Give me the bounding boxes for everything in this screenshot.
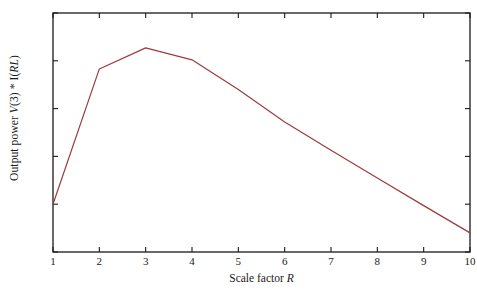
x-axis-label-text: Scale factor (229, 272, 284, 284)
x-tick-label: 7 (311, 255, 351, 267)
x-tick-label: 2 (79, 255, 119, 267)
plot-area (53, 13, 470, 252)
chart-figure: 0.9 W1.0 W1.1 W1.2 W1.3 W1.4 W 123456789… (0, 0, 477, 291)
x-tick-label: 6 (265, 255, 305, 267)
x-axis-label-symbol: R (287, 272, 294, 284)
x-tick-label: 3 (126, 255, 166, 267)
y-axis-label-v: V (8, 106, 20, 113)
y-axis-label-mid: (3) * I( (8, 73, 20, 106)
x-tick-label: 1 (33, 255, 73, 267)
x-axis-label: Scale factor R (53, 272, 470, 284)
y-axis-label-prefix: Output power (8, 113, 20, 181)
x-tick-label: 9 (404, 255, 444, 267)
x-tick-label: 4 (172, 255, 212, 267)
x-tick-label: 10 (450, 255, 477, 267)
y-axis-label-suffix: ) (8, 55, 20, 59)
x-tick-label: 8 (357, 255, 397, 267)
y-axis-label-rl: RL (8, 59, 20, 73)
y-axis-label: Output power V(3) * I(RL) (8, 18, 20, 218)
plot-background (53, 13, 470, 252)
chart-svg (0, 0, 477, 291)
x-tick-label: 5 (218, 255, 258, 267)
